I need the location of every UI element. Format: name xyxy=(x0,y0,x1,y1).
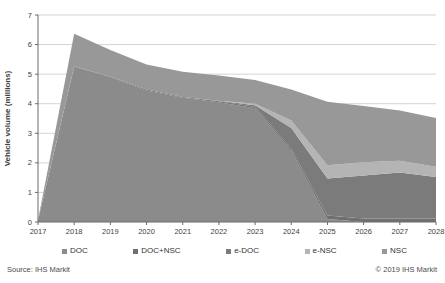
stacked-area-chart: 0123456720172018201920202021202220232024… xyxy=(0,0,445,244)
y-tick-label: 4 xyxy=(28,99,32,108)
legend-swatch-icon xyxy=(133,249,138,254)
y-tick-label: 2 xyxy=(28,158,32,167)
legend-item-NSC: NSC xyxy=(382,247,407,255)
x-tick-label: 2018 xyxy=(66,227,83,236)
x-tick-label: 2020 xyxy=(138,227,155,236)
y-tick-label: 3 xyxy=(28,129,32,138)
x-tick-label: 2019 xyxy=(102,227,119,236)
legend-item-e-DOC: e-DOC xyxy=(226,247,259,255)
legend-label: DOC+NSC xyxy=(141,247,180,255)
x-tick-label: 2024 xyxy=(283,227,300,236)
legend-label: e-NSC xyxy=(313,247,337,255)
x-tick-label: 2025 xyxy=(319,227,336,236)
x-tick-label: 2023 xyxy=(247,227,264,236)
legend-label: e-DOC xyxy=(234,247,259,255)
copyright-text: © 2019 IHS Markit xyxy=(376,265,437,274)
legend-item-DOC+NSC: DOC+NSC xyxy=(133,247,180,255)
x-tick-label: 2026 xyxy=(355,227,372,236)
y-tick-label: 5 xyxy=(28,70,32,79)
source-text: Source: IHS Markit xyxy=(7,265,70,274)
legend-item-DOC: DOC xyxy=(62,247,88,255)
chart-legend: DOCDOC+NSCe-DOCe-NSCNSC xyxy=(62,247,407,255)
y-tick-label: 0 xyxy=(28,218,32,227)
legend-swatch-icon xyxy=(62,249,67,254)
legend-swatch-icon xyxy=(382,249,387,254)
y-tick-label: 7 xyxy=(28,11,32,20)
x-tick-label: 2017 xyxy=(30,227,47,236)
legend-label: NSC xyxy=(390,247,407,255)
y-axis-title: Vehicle volume (millions) xyxy=(3,70,12,166)
chart-panel: 0123456720172018201920202021202220232024… xyxy=(0,0,445,283)
y-tick-label: 6 xyxy=(28,40,32,49)
x-tick-label: 2021 xyxy=(174,227,191,236)
x-tick-label: 2028 xyxy=(428,227,445,236)
legend-swatch-icon xyxy=(226,249,231,254)
legend-label: DOC xyxy=(70,247,88,255)
series-areas xyxy=(38,34,436,222)
legend-swatch-icon xyxy=(305,249,310,254)
legend-item-e-NSC: e-NSC xyxy=(305,247,337,255)
x-tick-label: 2022 xyxy=(211,227,228,236)
x-tick-label: 2027 xyxy=(391,227,408,236)
y-tick-label: 1 xyxy=(28,188,32,197)
